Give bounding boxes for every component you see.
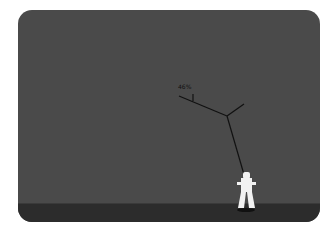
figure-shadow	[237, 208, 255, 212]
rope-lines	[179, 94, 245, 178]
player-figure[interactable]	[237, 172, 256, 208]
rope-scene	[0, 0, 336, 232]
